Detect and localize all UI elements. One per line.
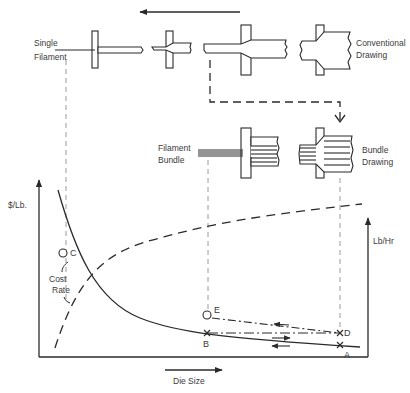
y-axis-left-label: $/Lb.: [8, 200, 27, 211]
label-filament-bundle-2: Bundle: [158, 155, 184, 166]
large-die: [300, 25, 351, 75]
point-b-label: B: [203, 339, 209, 349]
medium-die: [204, 25, 287, 75]
rate-curve: [55, 204, 362, 348]
point-c-marker: [59, 249, 67, 257]
x-axis-label: Die Size: [173, 376, 205, 387]
cost-curve-label: Cost: [49, 274, 66, 285]
y-axis-right-label: Lb/Hr: [373, 236, 394, 247]
point-c-label: C: [70, 248, 77, 258]
label-single: Single: [34, 38, 58, 49]
bundle-die: [198, 128, 279, 178]
point-e-marker: [203, 311, 211, 319]
label-conventional: Conventional: [356, 38, 406, 49]
label-filament: Filament: [34, 52, 67, 63]
point-d-label: D: [344, 328, 351, 338]
point-a-label: A: [344, 350, 350, 360]
operating-path: [208, 318, 340, 346]
label-filament-bundle-1: Filament: [158, 143, 191, 154]
small-die: [152, 31, 191, 68]
point-e-label: E: [214, 305, 220, 315]
label-conventional-drawing: Drawing: [356, 50, 387, 61]
rate-curve-label: Rate: [52, 285, 70, 296]
bundle-drawing-die: [299, 128, 353, 178]
single-filament-die: [55, 31, 143, 68]
label-bundle-drawing-2: Drawing: [362, 157, 393, 168]
guide-lines: [66, 60, 340, 330]
label-bundle-drawing-1: Bundle: [362, 145, 388, 156]
cost-curve: [58, 190, 360, 347]
